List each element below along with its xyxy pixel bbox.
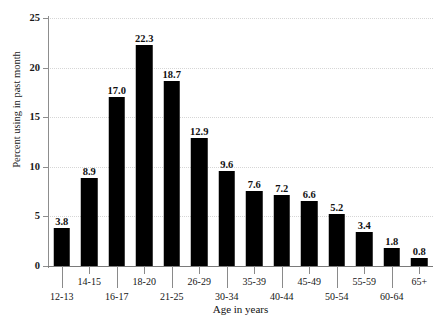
bar-slot[interactable]: 3.8: [48, 18, 76, 266]
bar[interactable]: [136, 45, 153, 266]
x-tick-mark: [172, 266, 173, 288]
x-tick-mark: [337, 266, 338, 288]
x-tick-label: 12-13: [50, 291, 73, 302]
x-tick-mark: [227, 266, 228, 288]
bar[interactable]: [109, 97, 126, 266]
x-tick-label: 16-17: [105, 291, 128, 302]
y-tick-label: 5: [14, 210, 40, 221]
bar-value-label: 17.0: [108, 85, 126, 96]
x-tick-mark: [62, 266, 63, 288]
bar-slot[interactable]: 7.6: [241, 18, 269, 266]
x-tick-mark: [199, 266, 200, 274]
x-tick-mark: [392, 266, 393, 288]
x-axis-ticks: 12-1314-1516-1718-2021-2526-2930-3435-39…: [48, 266, 433, 306]
bar-slot[interactable]: 9.6: [213, 18, 241, 266]
bar[interactable]: [246, 191, 263, 266]
bar-slot[interactable]: 18.7: [158, 18, 186, 266]
x-tick-mark: [117, 266, 118, 288]
bar[interactable]: [219, 171, 236, 266]
bar[interactable]: [54, 228, 71, 266]
bar-slot[interactable]: 0.8: [406, 18, 434, 266]
x-tick-mark: [364, 266, 365, 274]
x-tick-label: 50-54: [325, 291, 348, 302]
bar-value-label: 8.9: [83, 166, 96, 177]
bar-slot[interactable]: 12.9: [186, 18, 214, 266]
x-tick-label: 40-44: [270, 291, 293, 302]
bar[interactable]: [301, 201, 318, 266]
bar-value-label: 7.6: [248, 179, 261, 190]
x-tick-label: 30-34: [215, 291, 238, 302]
bar-value-label: 3.4: [358, 220, 371, 231]
bar[interactable]: [191, 138, 208, 266]
x-tick-label: 60-64: [380, 291, 403, 302]
bar[interactable]: [274, 195, 291, 266]
x-tick-label: 18-20: [133, 276, 156, 287]
bar-series: 3.88.917.022.318.712.99.67.67.26.65.23.4…: [48, 18, 433, 266]
bar-value-label: 6.6: [303, 189, 316, 200]
y-tick: 5: [0, 210, 40, 222]
x-tick-label: 35-39: [243, 276, 266, 287]
bar-slot[interactable]: 1.8: [378, 18, 406, 266]
bar[interactable]: [164, 81, 181, 267]
bar-value-label: 12.9: [190, 126, 208, 137]
x-tick-mark: [144, 266, 145, 274]
x-axis-title: Age in years: [48, 303, 433, 315]
x-tick-label: 45-49: [298, 276, 321, 287]
bar[interactable]: [356, 232, 373, 266]
bar-value-label: 22.3: [135, 33, 153, 44]
x-tick-label: 26-29: [188, 276, 211, 287]
bar[interactable]: [411, 258, 428, 266]
bar-slot[interactable]: 8.9: [76, 18, 104, 266]
x-tick-mark: [309, 266, 310, 274]
clipped-chart-title: [24, 0, 324, 3]
bar-value-label: 18.7: [163, 69, 181, 80]
bar-value-label: 7.2: [275, 183, 288, 194]
x-tick-label: 55-59: [353, 276, 376, 287]
bar[interactable]: [81, 178, 98, 266]
bar[interactable]: [384, 248, 401, 266]
x-tick-label: 14-15: [78, 276, 101, 287]
bar-value-label: 9.6: [220, 159, 233, 170]
x-tick-mark: [254, 266, 255, 274]
bar-slot[interactable]: 22.3: [131, 18, 159, 266]
x-tick-label: 21-25: [160, 291, 183, 302]
bar-value-label: 0.8: [413, 246, 426, 257]
x-tick-mark: [282, 266, 283, 288]
bar-slot[interactable]: 5.2: [323, 18, 351, 266]
bar-value-label: 5.2: [330, 202, 343, 213]
bar[interactable]: [329, 214, 346, 266]
bar-slot[interactable]: 7.2: [268, 18, 296, 266]
bar-slot[interactable]: 17.0: [103, 18, 131, 266]
bar-slot[interactable]: 3.4: [351, 18, 379, 266]
y-tick: 0: [0, 260, 40, 272]
x-tick-mark: [419, 266, 420, 274]
y-tick-label: 0: [14, 260, 40, 271]
bar-value-label: 1.8: [385, 236, 398, 247]
x-tick-label: 65+: [411, 276, 427, 287]
bar-value-label: 3.8: [55, 216, 68, 227]
bar-slot[interactable]: 6.6: [296, 18, 324, 266]
x-tick-mark: [89, 266, 90, 274]
y-axis-title: Percent using in past month: [11, 10, 22, 210]
bar-chart: 0510152025 Percent using in past month 3…: [0, 0, 438, 323]
